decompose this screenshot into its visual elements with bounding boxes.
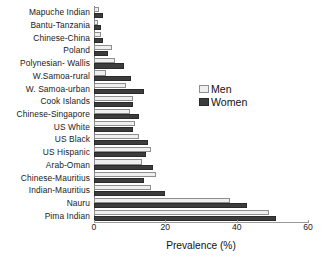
bar-men — [94, 70, 106, 75]
bar-row: Chinese-China — [94, 31, 308, 44]
x-tick-label: 20 — [161, 223, 171, 232]
bar-row: US Hispanic — [94, 146, 308, 159]
bar-men — [94, 45, 112, 50]
bar-men — [94, 7, 99, 12]
bar-women — [94, 191, 165, 196]
category-label: Chinese-Mauritius — [21, 173, 90, 181]
category-label: Mapuche Indian — [29, 8, 90, 16]
bar-row: W.Samoa-rural — [94, 70, 308, 83]
x-tick-label: 0 — [92, 223, 97, 232]
legend-label-women: Women — [211, 97, 247, 108]
bar-row: Poland — [94, 44, 308, 57]
category-label: Arab-Oman — [46, 161, 90, 169]
bar-men — [94, 185, 151, 190]
bar-rows: Mapuche IndianBantu-TanzaniaChinese-Chin… — [94, 6, 308, 222]
bar-row: US White — [94, 120, 308, 133]
bar-women — [94, 76, 131, 81]
bar-row: Indian-Mauritius — [94, 184, 308, 197]
bar-women — [94, 38, 103, 43]
bar-row: Mapuche Indian — [94, 6, 308, 19]
bar-women — [94, 63, 124, 68]
bar-row: Nauru — [94, 197, 308, 210]
category-label: W.Samoa-rural — [33, 72, 90, 80]
category-label: Polynesian- Wallis — [20, 59, 90, 67]
category-label: US Black — [55, 135, 90, 143]
category-label: Chinese-China — [33, 34, 90, 42]
bar-row: Polynesian- Wallis — [94, 57, 308, 70]
bar-row: Arab-Oman — [94, 158, 308, 171]
bar-men — [94, 109, 130, 114]
bar-men — [94, 121, 135, 126]
prevalence-bar-chart: Mapuche IndianBantu-TanzaniaChinese-Chin… — [0, 0, 325, 262]
bar-men — [94, 134, 139, 139]
category-label: Cook Islands — [40, 97, 90, 105]
x-tick-label: 60 — [303, 223, 313, 232]
bar-row: Chinese-Mauritius — [94, 171, 308, 184]
category-label: US White — [54, 122, 90, 130]
bar-women — [94, 102, 133, 107]
bar-men — [94, 20, 98, 25]
legend-item-women: Women — [199, 97, 247, 108]
plot-area: Mapuche IndianBantu-TanzaniaChinese-Chin… — [94, 6, 308, 222]
bar-row: Chinese-Singapore — [94, 108, 308, 121]
category-label: Indian-Mauritius — [29, 186, 90, 194]
bar-men — [94, 32, 101, 37]
bar-women — [94, 127, 133, 132]
bar-women — [94, 203, 247, 208]
bar-men — [94, 198, 230, 203]
bar-row: Pima Indian — [94, 209, 308, 222]
bar-women — [94, 165, 153, 170]
category-label: Poland — [63, 46, 90, 54]
category-label: Nauru — [67, 199, 90, 207]
bar-women — [94, 89, 144, 94]
bar-women — [94, 13, 103, 18]
bar-row: Bantu-Tanzania — [94, 19, 308, 32]
x-axis-ticks: 0204060 — [94, 223, 308, 237]
bar-women — [94, 178, 144, 183]
bar-women — [94, 25, 101, 30]
category-label: Pima Indian — [45, 211, 90, 219]
bar-men — [94, 210, 269, 215]
bar-men — [94, 96, 133, 101]
bar-women — [94, 140, 148, 145]
bar-men — [94, 172, 156, 177]
bar-women — [94, 51, 108, 56]
bar-women — [94, 152, 146, 157]
x-axis-title: Prevalence (%) — [94, 241, 308, 251]
bar-women — [94, 114, 139, 119]
bar-men — [94, 58, 115, 63]
legend-swatch-women-icon — [199, 98, 209, 106]
bar-women — [94, 216, 276, 221]
x-tick-label: 40 — [232, 223, 242, 232]
category-label: Chinese-Singapore — [17, 110, 90, 118]
category-label: Bantu-Tanzania — [30, 21, 90, 29]
legend-swatch-men-icon — [199, 85, 209, 93]
category-label: US Hispanic — [43, 148, 90, 156]
category-label: W. Samoa-urban — [26, 84, 90, 92]
bar-men — [94, 83, 126, 88]
bar-men — [94, 159, 142, 164]
legend-item-men: Men — [199, 84, 247, 95]
bar-row: US Black — [94, 133, 308, 146]
bar-men — [94, 147, 151, 152]
chart-legend: Men Women — [199, 84, 247, 109]
legend-label-men: Men — [211, 84, 232, 95]
